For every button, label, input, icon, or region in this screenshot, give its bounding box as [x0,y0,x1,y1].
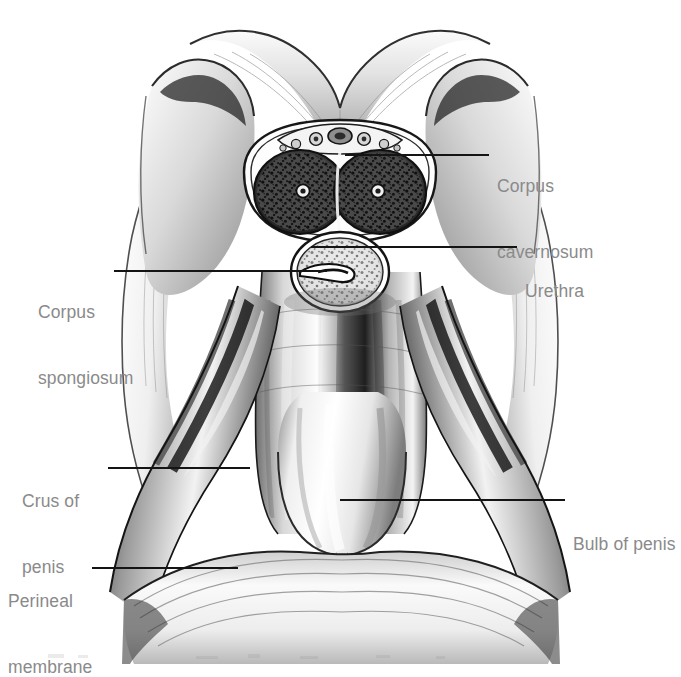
leader-line-bulb-of-penis [340,499,565,501]
label-perineal-membrane-line1: Perineal [8,590,92,612]
leader-line-crus-of-penis [108,467,250,469]
leader-line-corpus-spongiosum [114,270,327,272]
label-bulb-of-penis-line1: Bulb of penis [573,533,675,555]
label-perineal-membrane: Perineal membrane [8,546,92,677]
corpus-cavernosum-right-section [334,150,426,234]
label-corpus-spongiosum: Corpus spongiosum [38,257,133,411]
label-crus-of-penis-line1: Crus of [22,490,79,512]
section-shadow [284,288,396,316]
leader-line-corpus-cavernosum [345,154,489,156]
label-corpus-cavernosum-line1: Corpus [497,175,593,197]
label-corpus-spongiosum-line1: Corpus [38,301,133,323]
label-bulb-of-penis: Bulb of penis [573,489,675,577]
label-urethra: Urethra [525,236,584,324]
label-perineal-membrane-line2: membrane [8,656,92,677]
leader-line-perineal-membrane [92,567,238,569]
leader-line-urethra [311,246,517,248]
label-corpus-spongiosum-line2: spongiosum [38,367,133,389]
label-urethra-line1: Urethra [525,280,584,302]
corpus-cavernosum-left-section [254,150,346,234]
